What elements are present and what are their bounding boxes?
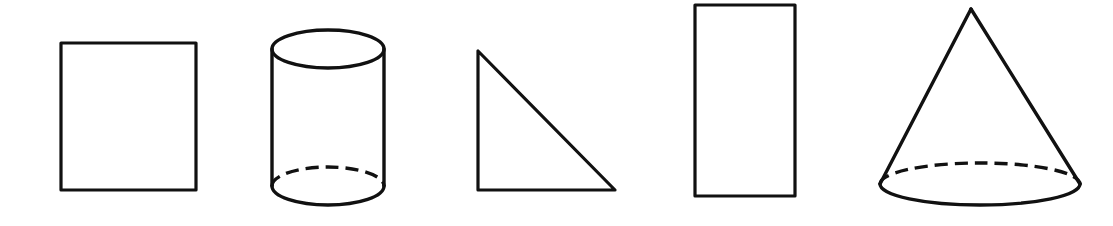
cone-left-slant <box>880 9 971 184</box>
shape-square <box>61 43 196 190</box>
right-triangle-outline <box>478 51 615 190</box>
cylinder-bottom-front-arc <box>272 186 384 205</box>
shape-cone <box>880 9 1080 205</box>
cone-base-front-arc <box>880 184 1080 205</box>
figure-canvas <box>0 0 1113 226</box>
shape-cylinder <box>272 30 384 205</box>
square-outline <box>61 43 196 190</box>
cone-right-slant <box>971 9 1080 184</box>
shape-rectangle <box>695 5 795 196</box>
cylinder-top-ellipse <box>272 30 384 68</box>
shapes-illustration <box>0 0 1113 226</box>
shape-right-triangle <box>478 51 615 190</box>
cylinder-bottom-hidden-arc <box>272 167 384 186</box>
rectangle-outline <box>695 5 795 196</box>
cone-base-hidden-arc <box>880 163 1080 184</box>
